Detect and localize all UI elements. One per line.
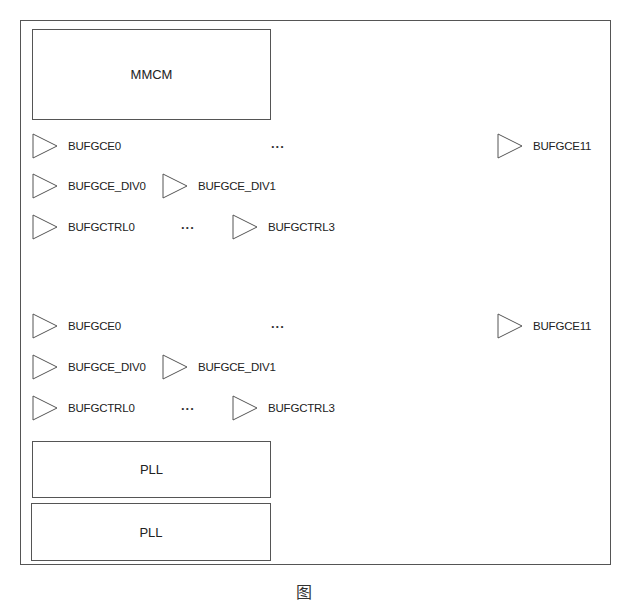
buffer-triangle-icon bbox=[497, 313, 523, 339]
buffer-triangle-icon bbox=[232, 395, 258, 421]
buffer-label: BUFGCE11 bbox=[533, 140, 591, 152]
buffer-label: BUFGCE0 bbox=[68, 320, 121, 332]
ellipsis: ... bbox=[271, 316, 285, 331]
buffer-label: BUFGCE0 bbox=[68, 140, 121, 152]
mmcm-label: MMCM bbox=[131, 67, 173, 82]
ellipsis: ... bbox=[181, 217, 195, 232]
buffer-label: BUFGCE_DIV1 bbox=[198, 361, 276, 373]
bufgce0-buffer: BUFGCE0 bbox=[32, 133, 121, 159]
bufgce11-buffer: BUFGCE11 bbox=[497, 133, 591, 159]
buffer-triangle-icon bbox=[497, 133, 523, 159]
bufgce0-buffer: BUFGCE0 bbox=[32, 313, 121, 339]
bufgce11-buffer: BUFGCE11 bbox=[497, 313, 591, 339]
buffer-triangle-icon bbox=[162, 173, 188, 199]
bufgctrl3-buffer: BUFGCTRL3 bbox=[232, 395, 335, 421]
buffer-triangle-icon bbox=[32, 133, 58, 159]
buffer-label: BUFGCTRL0 bbox=[68, 221, 135, 233]
pll-block-1: PLL bbox=[31, 503, 271, 561]
buffer-triangle-icon bbox=[32, 173, 58, 199]
buffer-label: BUFGCE_DIV0 bbox=[68, 180, 146, 192]
bufgctrl0-buffer: BUFGCTRL0 bbox=[32, 214, 135, 240]
buffer-triangle-icon bbox=[32, 214, 58, 240]
bufgce-div1-buffer: BUFGCE_DIV1 bbox=[162, 173, 276, 199]
buffer-label: BUFGCE_DIV1 bbox=[198, 180, 276, 192]
pll-block-0: PLL bbox=[32, 441, 271, 498]
pll-label: PLL bbox=[140, 462, 163, 477]
buffer-triangle-icon bbox=[32, 354, 58, 380]
bufgce-div0-buffer: BUFGCE_DIV0 bbox=[32, 354, 146, 380]
bufgce-div0-buffer: BUFGCE_DIV0 bbox=[32, 173, 146, 199]
bufgce-div1-buffer: BUFGCE_DIV1 bbox=[162, 354, 276, 380]
buffer-triangle-icon bbox=[32, 395, 58, 421]
pll-label: PLL bbox=[139, 525, 162, 540]
buffer-triangle-icon bbox=[32, 313, 58, 339]
buffer-label: BUFGCE_DIV0 bbox=[68, 361, 146, 373]
mmcm-block: MMCM bbox=[32, 29, 271, 120]
buffer-triangle-icon bbox=[162, 354, 188, 380]
figure-caption: 图 bbox=[296, 585, 312, 601]
ellipsis: ... bbox=[181, 398, 195, 413]
buffer-label: BUFGCE11 bbox=[533, 320, 591, 332]
buffer-label: BUFGCTRL3 bbox=[268, 402, 335, 414]
ellipsis: ... bbox=[271, 136, 285, 151]
buffer-label: BUFGCTRL3 bbox=[268, 221, 335, 233]
bufgctrl3-buffer: BUFGCTRL3 bbox=[232, 214, 335, 240]
bufgctrl0-buffer: BUFGCTRL0 bbox=[32, 395, 135, 421]
buffer-triangle-icon bbox=[232, 214, 258, 240]
buffer-label: BUFGCTRL0 bbox=[68, 402, 135, 414]
